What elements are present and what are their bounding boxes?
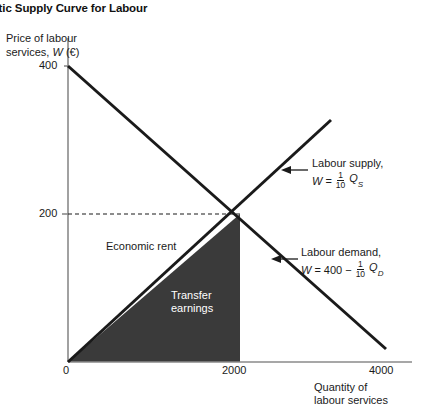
y-axis-label-line2-pre: services, [6,46,52,58]
x-tick-label-4000: 4000 [369,364,393,376]
demand-eq-fraction-denominator: 10 [355,270,366,279]
chart-plot-area [0,0,423,413]
demand-eq-variable: Q [369,261,378,273]
labour-supply-equation: W = 1 10 QS [312,171,383,190]
supply-eq-equals: = [325,174,331,188]
x-axis-label: Quantity of labour services [314,381,422,407]
economic-rent-label: Economic rent [106,240,176,253]
chart-figure: astic Supply Curve for Labour Price of l… [0,0,423,413]
x-tick-label-0: 0 [63,364,69,376]
labour-demand-annotation-label: Labour demand, [301,245,383,259]
demand-eq-fraction: 1 10 [355,260,366,279]
labour-demand-annotation: Labour demand, W = 400 − 1 10 QD [301,245,383,279]
transfer-earnings-label-line1: Transfer [171,289,212,301]
labour-supply-annotation: Labour supply, W = 1 10 QS [312,156,383,190]
y-axis-label-line1: Price of labour [6,32,77,44]
transfer-earnings-label-line2: earnings [171,302,213,314]
labour-demand-equation: W = 400 − 1 10 QD [301,260,383,279]
y-tick-label-200: 200 [39,207,57,219]
demand-eq-equals: = [314,263,320,277]
supply-eq-variable-group: QS [349,171,363,190]
labour-supply-annotation-label: Labour supply, [312,156,383,170]
y-axis-label-symbol: W [52,46,62,58]
supply-eq-lhs: W [312,174,322,188]
supply-eq-subscript: S [358,180,363,189]
demand-eq-intercept: 400 [324,263,342,277]
demand-eq-subscript: D [378,269,384,278]
supply-eq-fraction: 1 10 [335,171,346,190]
x-axis-label-line2: labour services [314,394,388,406]
supply-eq-fraction-denominator: 10 [335,181,346,190]
y-axis-label-line2-post: (€) [63,46,80,58]
supply-annotation-arrowhead [281,166,291,174]
demand-eq-minus: − [345,263,351,277]
y-axis-label: Price of labour services, W (€) [6,31,79,59]
demand-eq-variable-group: QD [369,260,383,279]
x-tick-label-2000: 2000 [222,364,246,376]
y-tick-label-400: 400 [39,59,57,71]
supply-eq-variable: Q [349,172,358,184]
transfer-earnings-label: Transfer earnings [171,289,241,315]
demand-annotation-arrowhead [271,255,281,263]
x-axis-label-line1: Quantity of [314,381,367,393]
demand-eq-lhs: W [301,263,311,277]
